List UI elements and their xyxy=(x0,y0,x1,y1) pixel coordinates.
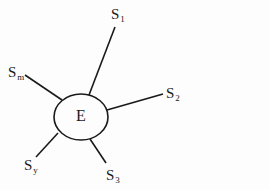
edge-s3 xyxy=(90,139,106,163)
edges xyxy=(25,27,163,163)
node-label-sm: Sm xyxy=(8,65,24,82)
node-label-s2: S2 xyxy=(166,86,180,103)
node-label-base: S xyxy=(24,157,32,173)
star-diagram xyxy=(0,0,269,190)
node-label-subscript: 1 xyxy=(120,14,125,24)
edge-sm xyxy=(25,75,62,100)
edge-s1 xyxy=(89,27,115,95)
node-label-base: S xyxy=(8,64,16,80)
node-label-subscript: 3 xyxy=(115,175,120,185)
node-label-subscript: m xyxy=(17,72,24,82)
edge-sy xyxy=(36,133,58,157)
center-node-label: E xyxy=(76,108,86,124)
node-label-sy: Sy xyxy=(24,158,38,175)
node-label-base: S xyxy=(166,85,174,101)
node-label-subscript: y xyxy=(33,165,38,175)
node-label-s1: S1 xyxy=(111,7,125,24)
node-label-base: S xyxy=(106,167,114,183)
edge-s2 xyxy=(107,94,163,110)
node-label-base: S xyxy=(111,6,119,22)
node-label-s3: S3 xyxy=(106,168,120,185)
node-label-subscript: 2 xyxy=(175,93,180,103)
